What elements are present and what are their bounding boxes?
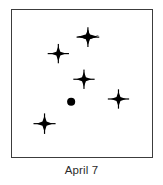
star-top-ray-vertical [87, 27, 88, 47]
star-right-ray-vertical [118, 89, 119, 108]
star-chart-figure: April 7 [0, 0, 163, 185]
star-upper-left-ray-vertical [58, 44, 59, 63]
star-middle-ray-vertical [83, 70, 84, 89]
planet-dot-marker [67, 98, 75, 106]
sky-panel [11, 9, 153, 158]
figure-caption: April 7 [0, 164, 163, 176]
star-lower-left-ray-vertical [44, 113, 45, 134]
sky-plot-area [12, 10, 152, 157]
